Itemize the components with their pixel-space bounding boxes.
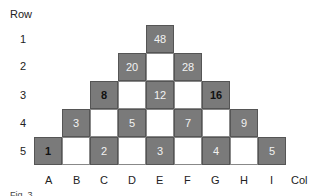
cell-r1-e: 48: [146, 25, 174, 53]
cell-r5-h: [230, 137, 258, 165]
cell-r5-i: 5: [258, 137, 286, 165]
cell-r5-d: [118, 137, 146, 165]
cell-r4-c: [90, 109, 118, 137]
cell-r5-a: 1: [34, 137, 62, 165]
col-label-e: E: [156, 174, 163, 186]
cell-r5-e: 3: [146, 137, 174, 165]
cell-r3-c: 8: [90, 81, 118, 109]
cell-r4-g: [202, 109, 230, 137]
cell-r2-f: 28: [174, 53, 202, 81]
figure-caption: Fig. 3: [10, 190, 33, 196]
col-label-g: G: [211, 174, 220, 186]
cell-r2-e: [146, 53, 174, 81]
cell-r4-f: 7: [174, 109, 202, 137]
cell-r3-d: [118, 81, 146, 109]
row-label-4: 4: [20, 117, 26, 129]
col-axis-title: Col: [291, 174, 308, 186]
cell-r5-f: [174, 137, 202, 165]
cell-r3-e: 12: [146, 81, 174, 109]
row-axis-title: Row: [10, 8, 32, 20]
col-label-d: D: [128, 174, 136, 186]
cell-r4-b: 3: [62, 109, 90, 137]
cell-r2-d: 20: [118, 53, 146, 81]
cell-r3-g: 16: [202, 81, 230, 109]
cell-r4-h: 9: [230, 109, 258, 137]
row-label-5: 5: [20, 145, 26, 157]
col-label-b: B: [73, 174, 80, 186]
col-label-c: C: [100, 174, 108, 186]
row-label-1: 1: [20, 33, 26, 45]
col-label-i: I: [270, 174, 273, 186]
row-label-3: 3: [20, 89, 26, 101]
col-label-f: F: [184, 174, 191, 186]
cell-r3-f: [174, 81, 202, 109]
row-label-2: 2: [20, 60, 26, 72]
cell-r5-g: 4: [202, 137, 230, 165]
cell-r4-d: 5: [118, 109, 146, 137]
cell-r4-e: [146, 109, 174, 137]
cell-r5-c: 2: [90, 137, 118, 165]
col-label-a: A: [45, 174, 52, 186]
cell-r5-b: [62, 137, 90, 165]
col-label-h: H: [240, 174, 248, 186]
